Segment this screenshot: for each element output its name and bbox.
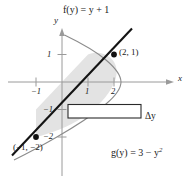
line-function-label: f(y) = y + 1	[63, 5, 109, 15]
x-axis-arrowhead	[166, 79, 174, 85]
y-axis-label: y	[54, 16, 58, 25]
point-label-lower: (−1, −2)	[13, 143, 43, 152]
curve-function-text: g(y) = 3 − y	[111, 147, 159, 158]
curve-function-label: g(y) = 3 − y2	[111, 147, 162, 158]
point-neg1-neg2-dot	[33, 134, 39, 140]
math-figure: f(y) = y + 1 y x −1 1 2 1 −1 −2 (2, 1) (…	[0, 0, 188, 180]
point-2-1-dot	[111, 52, 117, 58]
x-tick-label-1: 1	[85, 87, 89, 96]
representative-rectangle	[68, 105, 141, 119]
x-axis-label: x	[178, 74, 182, 83]
y-tick-label--2: −2	[43, 132, 53, 141]
x-tick-label-2: 2	[111, 87, 115, 96]
y-axis-arrowhead	[59, 28, 65, 36]
point-label-upper: (2, 1)	[119, 48, 139, 57]
x-tick-label--1: −1	[31, 87, 41, 96]
curve-function-exponent: 2	[159, 146, 162, 153]
y-tick-label--1: −1	[43, 105, 53, 114]
shaded-region	[36, 53, 117, 137]
y-tick-label-1: 1	[47, 50, 51, 59]
delta-y-label: Δy	[145, 112, 156, 122]
